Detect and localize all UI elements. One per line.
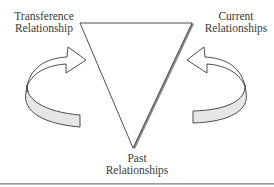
left-curved-arrow-icon: [26, 47, 86, 127]
bottom-divider: [0, 183, 274, 185]
right-curved-arrow-icon: [187, 47, 247, 123]
diagram-canvas: [0, 0, 274, 187]
left-arrow-top: [27, 47, 86, 86]
relationship-triangle: [80, 23, 194, 149]
right-arrow-underside: [193, 85, 247, 123]
right-arrow-top: [187, 47, 245, 86]
triangle-shape: [80, 23, 192, 148]
left-arrow-underside: [26, 85, 80, 127]
